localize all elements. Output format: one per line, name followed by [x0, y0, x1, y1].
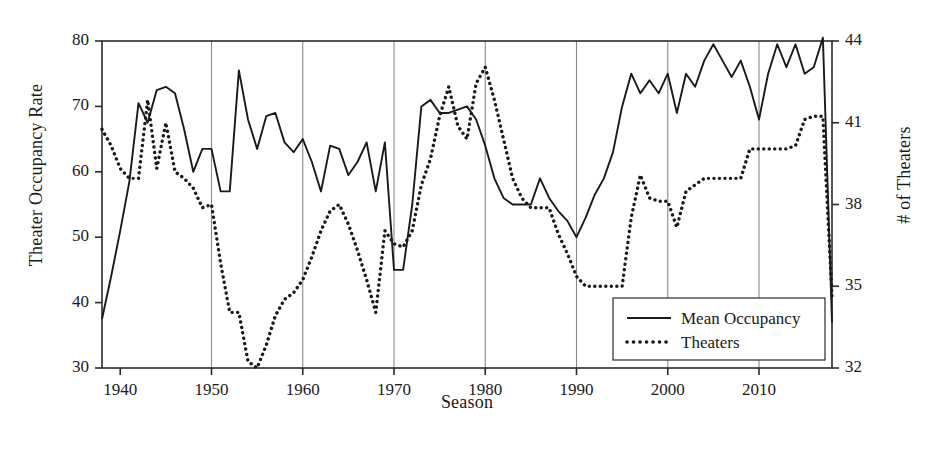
- chart-figure: Mean OccupancyTheaters Theater Occupancy…: [0, 0, 937, 451]
- y-axis-right-tick-label: 38: [845, 194, 891, 214]
- x-axis-tick-label: 2000: [633, 380, 703, 400]
- y-axis-right-tick-label: 44: [845, 30, 891, 50]
- legend-label: Theaters: [681, 333, 740, 352]
- y-axis-right-tick-label: 41: [845, 112, 891, 132]
- x-axis-tick-label: 1940: [85, 380, 155, 400]
- y-axis-left-tick-label: 80: [43, 30, 89, 50]
- x-axis-tick-label: 1970: [359, 380, 429, 400]
- y-axis-right-tick-label: 32: [845, 357, 891, 377]
- y-axis-left-tick-label: 40: [43, 292, 89, 312]
- x-axis-tick-label: 1950: [177, 380, 247, 400]
- x-axis-tick-label: 1960: [268, 380, 338, 400]
- y-axis-left-tick-label: 50: [43, 226, 89, 246]
- y-axis-left-tick-label: 30: [43, 357, 89, 377]
- legend-label: Mean Occupancy: [681, 309, 801, 328]
- y-axis-left-tick-label: 60: [43, 161, 89, 181]
- x-axis-tick-label: 1990: [542, 380, 612, 400]
- x-axis-tick-label: 1980: [450, 380, 520, 400]
- y-axis-right-title: # of Theaters: [894, 10, 920, 340]
- y-axis-left-tick-label: 70: [43, 95, 89, 115]
- x-axis-tick-label: 2010: [724, 380, 794, 400]
- y-axis-right-tick-label: 35: [845, 275, 891, 295]
